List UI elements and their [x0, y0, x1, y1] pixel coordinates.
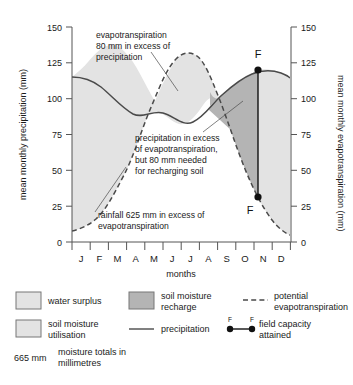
area-water-surplus-right-fix	[258, 70, 290, 235]
month-label-sep: S	[224, 253, 230, 264]
legend-item-moisture-totals: 665 mm moisture totals in millimetres	[14, 347, 126, 368]
legend-label-potential-evapotranspiration-line1: potential	[274, 291, 308, 301]
legend-label-precipitation: precipitation	[161, 324, 210, 334]
left-tick-label-125: 125	[47, 58, 62, 68]
annotation-evapo-excess-line1: evapotranspiration	[96, 30, 167, 40]
legend-field-capacity-marker-label-right: F	[250, 316, 254, 323]
legend-value-moisture-totals: 665 mm	[14, 353, 47, 363]
x-axis-title: months	[166, 269, 196, 279]
legend-label-moisture-totals-line1: moisture totals in	[58, 347, 126, 357]
month-label-may: M	[150, 253, 158, 264]
right-tick-label-75: 75	[301, 130, 311, 140]
left-tick-label-75: 75	[52, 130, 62, 140]
legend-label-field-capacity-line2: attained	[259, 330, 291, 340]
legend-label-soil-moisture-utilisation-line1: soil moisture	[48, 319, 99, 329]
left-tick-label-100: 100	[47, 94, 62, 104]
legend-swatch-water-surplus	[16, 292, 41, 309]
legend-label-soil-moisture-recharge-line1: soil moisture	[161, 291, 212, 301]
field-capacity-label-top: F	[255, 48, 262, 60]
legend-field-capacity-dot-left	[227, 326, 233, 332]
month-label-feb: F	[96, 253, 102, 264]
legend-field-capacity-marker-label-left: F	[228, 316, 232, 323]
legend-label-field-capacity-line1: field capacity	[259, 319, 312, 329]
left-tick-label-50: 50	[52, 166, 62, 176]
left-tick-label-25: 25	[52, 202, 62, 212]
legend-label-water-surplus: water surplus	[47, 296, 102, 306]
right-tick-label-50: 50	[301, 166, 311, 176]
legend-swatch-soil-moisture-utilisation	[16, 320, 41, 337]
right-tick-label-100: 100	[301, 94, 316, 104]
month-label-mar: M	[114, 253, 122, 264]
legend-field-capacity-dot-right	[249, 326, 255, 332]
right-axis-title: mean monthly evapotranspiration (mm)	[336, 75, 346, 232]
annotation-evapo-excess-line2: 80 mm in excess of	[96, 41, 171, 51]
annotation-precip-excess-line4: for recharging soil	[135, 166, 203, 176]
legend-item-precipitation: precipitation	[129, 324, 210, 334]
month-label-jun: J	[170, 253, 175, 264]
legend-item-water-surplus: water surplus	[16, 292, 102, 309]
field-capacity-dot-bottom	[254, 193, 261, 200]
annotation-precip-excess-line3: but 80 mm needed	[135, 155, 207, 165]
month-label-aug: A	[205, 253, 212, 264]
legend: water surplus soil moisture recharge pot…	[14, 291, 348, 368]
left-tick-label-150: 150	[47, 23, 62, 33]
left-axis-title: mean monthly precipitation (mm)	[18, 69, 28, 200]
month-label-oct: O	[241, 253, 248, 264]
annotation-evapo-excess-line3: precipitation	[96, 52, 143, 62]
x-axis: J F M A M J J A S O N D months	[72, 242, 291, 279]
legend-label-soil-moisture-utilisation-line2: utilisation	[48, 330, 86, 340]
legend-item-potential-evapotranspiration: potential evapotranspiration	[243, 291, 348, 312]
field-capacity-dot-top	[254, 66, 261, 73]
right-axis: 150 125 100 75 50 25 0 mean monthly evap…	[291, 23, 346, 248]
legend-label-potential-evapotranspiration-line2: evapotranspiration	[274, 302, 348, 312]
left-axis: 150 125 100 75 50 25 0 mean monthly prec…	[18, 23, 72, 248]
legend-item-field-capacity-attained: F F field capacity attained	[227, 316, 312, 340]
legend-item-soil-moisture-recharge: soil moisture recharge	[129, 291, 212, 312]
figure-root: F F 150 125 100 75 50 25 0 mean monthly …	[0, 0, 353, 385]
annotation-precip-excess-line1: precipitation in excess	[135, 133, 220, 143]
month-label-apr: A	[133, 253, 140, 264]
month-label-nov: N	[260, 253, 267, 264]
annotation-rainfall-excess-line2: evapotranspiration	[98, 221, 169, 231]
right-tick-label-125: 125	[301, 58, 316, 68]
left-tick-label-0: 0	[57, 238, 62, 248]
legend-label-moisture-totals-line2: millimetres	[58, 358, 102, 368]
legend-label-soil-moisture-recharge-line2: recharge	[161, 302, 197, 312]
legend-item-soil-moisture-utilisation: soil moisture utilisation	[16, 319, 99, 340]
month-label-jan: J	[79, 253, 84, 264]
water-budget-chart: F F 150 125 100 75 50 25 0 mean monthly …	[0, 0, 353, 385]
month-label-dec: D	[278, 253, 285, 264]
field-capacity-label-bottom: F	[247, 204, 254, 216]
annotation-rainfall-excess-line1: rainfall 625 mm in excess of	[98, 210, 205, 220]
right-tick-label-0: 0	[301, 238, 306, 248]
legend-swatch-soil-moisture-recharge	[129, 292, 154, 309]
right-tick-label-25: 25	[301, 202, 311, 212]
month-label-jul: J	[188, 253, 193, 264]
annotation-precip-excess-line2: of evapotranspiration,	[135, 144, 218, 154]
right-tick-label-150: 150	[301, 23, 316, 33]
